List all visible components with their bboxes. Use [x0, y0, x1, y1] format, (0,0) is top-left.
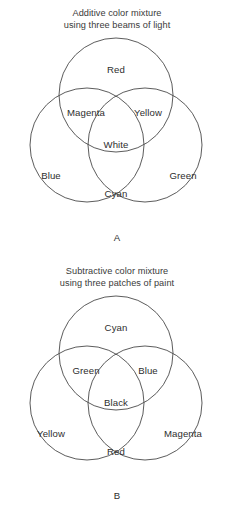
region-label-bottom-right: Magenta — [164, 429, 202, 439]
region-label-top: Red — [107, 65, 125, 75]
figure-subtractive-title-line1: Subtractive color mixture — [0, 266, 234, 278]
venn-circle-top — [59, 38, 173, 152]
figure-additive-title-line1: Additive color mixture — [0, 8, 234, 20]
region-label-top-right-overlap: Yellow — [134, 108, 162, 118]
figure-additive-title-line2: using three beams of light — [0, 20, 234, 32]
region-label-bottom-left: Yellow — [37, 429, 65, 439]
figure-additive-color-mixture: Additive color mixture using three beams… — [0, 0, 234, 258]
venn-circle-top — [59, 296, 173, 410]
region-label-top-left-overlap: Green — [72, 366, 99, 376]
venn-diagram-subtractive: Cyan Green Blue Black Yellow Red Magenta — [0, 290, 234, 496]
region-label-bottom-overlap: Cyan — [105, 189, 128, 199]
venn-circles-subtractive — [0, 290, 234, 496]
region-label-top-left-overlap: Magenta — [67, 108, 105, 118]
region-label-bottom-left: Blue — [41, 171, 61, 181]
region-label-top-right-overlap: Blue — [138, 366, 158, 376]
figure-additive-title: Additive color mixture using three beams… — [0, 8, 234, 31]
region-label-bottom-overlap: Red — [107, 447, 125, 457]
figure-subtractive-color-mixture: Subtractive color mixture using three pa… — [0, 258, 234, 516]
region-label-center: White — [103, 140, 128, 150]
region-label-bottom-right: Green — [169, 171, 196, 181]
figure-subtractive-title: Subtractive color mixture using three pa… — [0, 266, 234, 289]
venn-diagram-additive: Red Magenta Yellow White Blue Cyan Green — [0, 32, 234, 238]
region-label-top: Cyan — [105, 323, 128, 333]
venn-circles-additive — [0, 32, 234, 238]
figure-additive-caption: A — [0, 232, 234, 243]
region-label-center: Black — [104, 398, 128, 408]
figure-subtractive-caption: B — [0, 490, 234, 501]
figure-subtractive-title-line2: using three patches of paint — [0, 278, 234, 290]
